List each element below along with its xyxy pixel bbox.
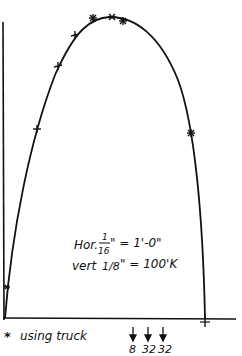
- scale-note: Hor. 1 16 " = 1'-0" vert 1/8 " = 100'K: [72, 232, 178, 273]
- vertical-axis: [3, 22, 4, 320]
- legend: * using truck 8 32 32: [4, 327, 172, 356]
- scale-hor-denominator: 16: [98, 246, 110, 256]
- legend-text: using truck: [20, 329, 88, 343]
- scale-hor-numerator: 1: [102, 232, 108, 242]
- asterisk-marker: [89, 14, 97, 22]
- axle-arrows: [130, 327, 166, 341]
- plus-marker: [33, 125, 41, 133]
- arrowhead-icon: [160, 335, 166, 341]
- axle-load-3: 32: [158, 343, 172, 356]
- asterisk-marker: [108, 14, 116, 20]
- axle-load-1: 8: [129, 343, 136, 356]
- asterisk-marker: [119, 17, 127, 25]
- arrowhead-icon: [130, 335, 136, 341]
- scale-vert-fraction: 1/8: [102, 260, 120, 273]
- scale-hor-value: " = 1'-0": [110, 236, 162, 250]
- arrowhead-icon: [145, 335, 151, 341]
- asterisk-marker: [187, 129, 195, 137]
- baseline: [3, 318, 236, 319]
- legend-marker: *: [4, 329, 11, 344]
- scale-vert-label: vert: [72, 259, 97, 273]
- scale-hor-label: Hor.: [74, 238, 98, 252]
- scale-vert-value: " = 100'K: [120, 257, 178, 271]
- axle-load-2: 32: [142, 343, 156, 356]
- moment-diagram: Hor. 1 16 " = 1'-0" vert 1/8 " = 100'K *…: [0, 0, 242, 356]
- plus-marker: [71, 31, 79, 39]
